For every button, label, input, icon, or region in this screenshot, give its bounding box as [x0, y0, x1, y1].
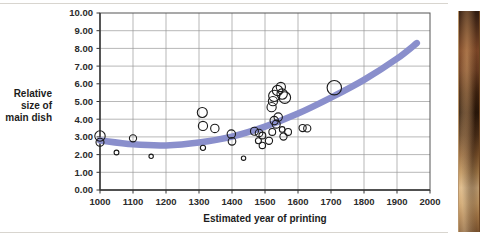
data-point: [200, 145, 205, 150]
data-point: [228, 138, 236, 146]
y-axis-title-line: Relative: [14, 88, 53, 99]
x-tick-label: 1400: [221, 196, 242, 207]
y-tick-label: 5.00: [75, 96, 94, 107]
y-tick-label: 0.00: [75, 184, 94, 195]
data-point: [149, 154, 153, 158]
y-axis-title-line: main dish: [5, 112, 52, 123]
data-point: [259, 142, 265, 148]
y-tick-label: 1.00: [75, 167, 94, 178]
data-point: [197, 107, 207, 117]
data-point: [241, 156, 245, 160]
x-tick-label: 1900: [386, 196, 407, 207]
data-point: [304, 125, 311, 132]
data-point: [279, 127, 285, 133]
x-tick-label: 1000: [89, 196, 110, 207]
x-tick-label: 1800: [353, 196, 374, 207]
data-point: [272, 120, 280, 128]
data-point: [327, 80, 341, 94]
scatter-plot: 0.001.002.003.004.005.006.007.008.009.00…: [0, 0, 448, 236]
data-point: [268, 97, 277, 106]
x-axis-title: Estimated year of printing: [203, 213, 326, 224]
y-tick-label: 8.00: [75, 43, 94, 54]
y-tick-label: 10.00: [69, 7, 93, 18]
data-point: [265, 137, 272, 144]
data-point: [96, 138, 104, 146]
y-axis-title: Relativesize ofmain dish: [5, 88, 52, 123]
figure-container: 0.001.002.003.004.005.006.007.008.009.00…: [0, 0, 480, 236]
x-tick-label: 2000: [419, 196, 440, 207]
y-tick-label: 3.00: [75, 131, 94, 142]
x-tick-label: 1700: [320, 196, 341, 207]
chart-area: 0.001.002.003.004.005.006.007.008.009.00…: [0, 0, 448, 236]
y-axis-tick-labels: 0.001.002.003.004.005.006.007.008.009.00…: [69, 7, 93, 195]
painting-strip-image: [458, 11, 480, 232]
y-tick-label: 4.00: [75, 114, 94, 125]
y-tick-label: 9.00: [75, 25, 94, 36]
x-tick-label: 1600: [287, 196, 308, 207]
x-tick-label: 1200: [155, 196, 176, 207]
x-axis-tick-labels: 1000110012001300140015001600170018001900…: [89, 196, 440, 207]
data-point: [198, 121, 207, 130]
data-point: [211, 124, 219, 132]
y-tick-label: 7.00: [75, 61, 94, 72]
data-point: [285, 129, 292, 136]
data-point: [114, 150, 119, 155]
data-point: [269, 129, 276, 136]
data-point: [227, 130, 235, 138]
data-point: [279, 92, 291, 104]
x-tick-label: 1100: [123, 196, 144, 207]
y-tick-label: 2.00: [75, 149, 94, 160]
y-tick-label: 6.00: [75, 78, 94, 89]
x-tick-label: 1500: [254, 196, 275, 207]
y-axis-title-line: size of: [21, 100, 53, 111]
data-point: [129, 135, 136, 142]
x-tick-label: 1300: [188, 196, 209, 207]
